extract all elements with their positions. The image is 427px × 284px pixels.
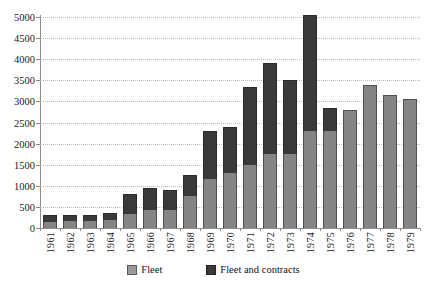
x-axis-tick-label: 1979 [405, 232, 416, 253]
bar-group[interactable] [363, 85, 377, 228]
bar-group[interactable] [403, 99, 417, 228]
y-axis-tick-label: 2500 [14, 117, 35, 128]
bar-series-container [40, 17, 420, 228]
x-axis-tick-label: 1976 [345, 232, 356, 253]
x-tick-mark [300, 228, 301, 231]
x-tick-mark [200, 228, 201, 231]
bar-group[interactable] [163, 190, 177, 228]
bar-group[interactable] [383, 95, 397, 228]
contracts-swatch-icon [206, 265, 216, 275]
legend-item-fleet[interactable]: Fleet [127, 264, 162, 275]
bar-segment-fleet-and-contracts [203, 131, 217, 179]
bar-segment-fleet-and-contracts [183, 175, 197, 196]
bar-segment-fleet [403, 99, 417, 228]
bar-group[interactable] [183, 175, 197, 228]
bar-group[interactable] [323, 108, 337, 228]
x-axis-tick-label: 1972 [265, 232, 276, 253]
x-tick-mark [320, 228, 321, 231]
legend-label-fleet: Fleet [141, 264, 162, 275]
bar-segment-fleet [63, 221, 77, 228]
bar-segment-fleet-and-contracts [303, 15, 317, 131]
bar-group[interactable] [343, 110, 357, 228]
bar-group[interactable] [203, 131, 217, 228]
bar-group[interactable] [63, 215, 77, 228]
x-axis-tick-label: 1968 [185, 232, 196, 253]
bar-group[interactable] [43, 215, 57, 228]
x-axis-tick-label: 1969 [205, 232, 216, 253]
bar-segment-fleet-and-contracts [223, 127, 237, 173]
legend-label-fleet-and-contracts: Fleet and contracts [220, 264, 299, 275]
x-tick-mark [100, 228, 101, 231]
y-axis-tick-label: 500 [19, 201, 35, 212]
x-tick-mark [280, 228, 281, 231]
bar-segment-fleet [43, 222, 57, 228]
bar-segment-fleet-and-contracts [283, 80, 297, 154]
plot-area: 0500100015002000250030003500400045005000 [40, 17, 420, 228]
x-axis-tick-label: 1962 [65, 232, 76, 253]
x-tick-mark [140, 228, 141, 231]
y-axis-tick-label: 4500 [14, 33, 35, 44]
bar-segment-fleet [103, 220, 117, 228]
bar-segment-fleet [123, 214, 137, 228]
bar-group[interactable] [123, 194, 137, 228]
x-axis-tick-label: 1974 [305, 232, 316, 253]
legend-item-fleet-and-contracts[interactable]: Fleet and contracts [206, 264, 299, 275]
bar-group[interactable] [83, 215, 97, 228]
chart-legend: Fleet Fleet and contracts [0, 264, 427, 275]
bar-segment-fleet [183, 196, 197, 228]
bar-segment-fleet-and-contracts [263, 63, 277, 154]
x-tick-mark [380, 228, 381, 231]
bar-segment-fleet [143, 210, 157, 228]
fleet-swatch-icon [127, 265, 137, 275]
chart-title [40, 0, 300, 1]
bar-segment-fleet [383, 95, 397, 228]
bar-segment-fleet [243, 165, 257, 228]
x-tick-mark [260, 228, 261, 231]
bar-group[interactable] [263, 63, 277, 228]
y-axis-tick-label: 3500 [14, 75, 35, 86]
bar-segment-fleet [343, 110, 357, 228]
x-tick-mark [420, 228, 421, 231]
x-axis-tick-label: 1967 [165, 232, 176, 253]
x-tick-mark [160, 228, 161, 231]
x-tick-mark [80, 228, 81, 231]
bar-group[interactable] [243, 87, 257, 228]
x-axis-tick-label: 1973 [285, 232, 296, 253]
x-tick-mark [40, 228, 41, 231]
bar-segment-fleet-and-contracts [143, 188, 157, 210]
bar-segment-fleet [283, 154, 297, 228]
bar-group[interactable] [143, 188, 157, 228]
y-axis-tick-label: 5000 [14, 12, 35, 23]
x-axis-tick-label: 1961 [45, 232, 56, 253]
x-axis-tick-label: 1975 [325, 232, 336, 253]
bar-segment-fleet-and-contracts [123, 194, 137, 214]
y-axis-tick-label: 3000 [14, 96, 35, 107]
gridline [40, 228, 420, 229]
bar-segment-fleet [323, 131, 337, 228]
bar-segment-fleet [83, 221, 97, 228]
x-tick-mark [60, 228, 61, 231]
x-tick-mark [240, 228, 241, 231]
x-axis-tick-label: 1964 [105, 232, 116, 253]
x-axis-tick-label: 1970 [225, 232, 236, 253]
x-axis-tick-label: 1965 [125, 232, 136, 253]
x-tick-mark [340, 228, 341, 231]
x-tick-mark [220, 228, 221, 231]
bar-group[interactable] [283, 80, 297, 228]
x-tick-mark [400, 228, 401, 231]
x-tick-mark [120, 228, 121, 231]
stacked-bar-chart: 0500100015002000250030003500400045005000… [0, 0, 427, 284]
y-axis-tick-label: 0 [30, 223, 35, 234]
bar-segment-fleet [223, 173, 237, 228]
x-tick-mark [360, 228, 361, 231]
bar-segment-fleet [163, 210, 177, 228]
y-axis-tick-label: 4000 [14, 54, 35, 65]
bar-segment-fleet-and-contracts [163, 190, 177, 210]
bar-group[interactable] [103, 213, 117, 228]
y-axis-tick-label: 2000 [14, 138, 35, 149]
bar-segment-fleet [363, 85, 377, 228]
x-tick-mark [180, 228, 181, 231]
bar-group[interactable] [223, 127, 237, 228]
bar-group[interactable] [303, 15, 317, 228]
bar-segment-fleet [303, 131, 317, 228]
